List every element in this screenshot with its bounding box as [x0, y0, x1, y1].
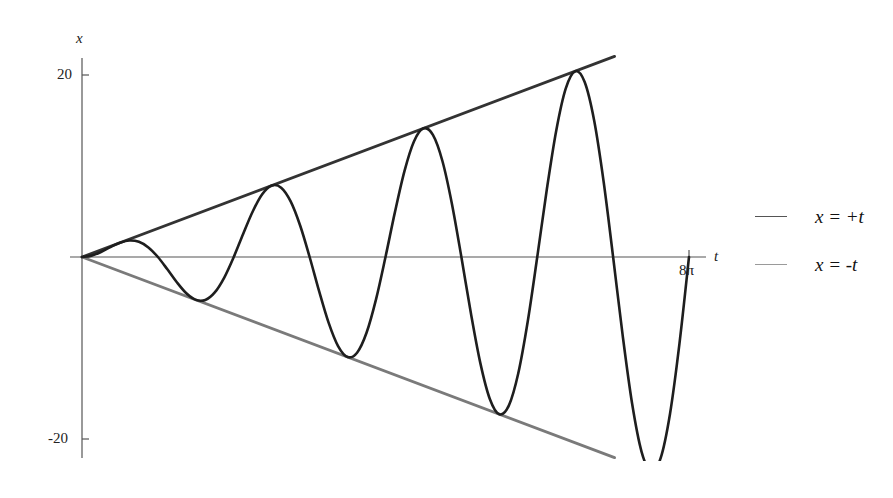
legend-swatch-minus-t [755, 264, 787, 265]
legend-item-minus-t: x = -t [755, 254, 893, 274]
x-tick-label-8pi: 8π [679, 262, 694, 279]
y-tick-label-minus-20: -20 [48, 430, 68, 447]
curve-t-sin-t [82, 71, 689, 472]
x-axis-label: t [714, 248, 718, 265]
legend-item-plus-t: x = +t [755, 206, 893, 226]
legend-label-plus-t: x = +t [815, 206, 864, 228]
legend-swatch-plus-t [755, 216, 787, 217]
legend-label-minus-t: x = -t [815, 254, 857, 276]
y-axis-label: x [76, 30, 83, 47]
line-plus-t [82, 56, 615, 257]
plot-area [0, 0, 893, 498]
y-tick-label-20: 20 [57, 66, 72, 83]
